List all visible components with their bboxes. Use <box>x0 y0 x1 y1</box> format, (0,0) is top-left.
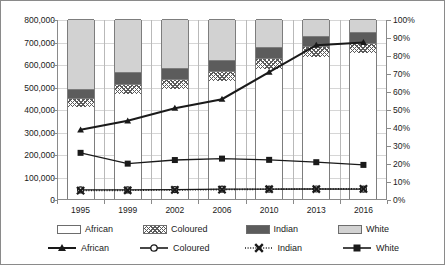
legend-label: White <box>376 243 399 253</box>
x-tick-mark <box>246 200 247 204</box>
x-tick-mark <box>293 200 294 204</box>
x-tick-mark <box>151 200 152 204</box>
x-tick-mark <box>387 200 388 204</box>
legend-swatch-white-icon <box>338 225 362 234</box>
y-tick-label: 700,000 <box>3 39 55 48</box>
legend-item-line-indian[interactable]: Indian <box>244 243 303 253</box>
x-tick-label: 2013 <box>293 205 339 215</box>
y-tick-label: 600,000 <box>3 61 55 70</box>
y2-tick-mark <box>387 20 391 21</box>
x-tick-label: 2006 <box>199 205 245 215</box>
y-tick-label: 300,000 <box>3 129 55 138</box>
y-tick-label: 200,000 <box>3 151 55 160</box>
legend-item-bar-indian[interactable]: Indian <box>246 224 299 234</box>
legend-label: Coloured <box>173 243 210 253</box>
y-tick-label: 100,000 <box>3 174 55 183</box>
line-series-white <box>78 150 367 168</box>
y-tick-label: 500,000 <box>3 84 55 93</box>
y2-tick-label: 100% <box>393 16 433 25</box>
legend-item-bar-african[interactable]: African <box>57 224 113 234</box>
y-tick-label: 800,000 <box>3 16 55 25</box>
plot-border-bottom <box>57 199 387 200</box>
plot-border-right <box>386 20 387 200</box>
plot-border-left <box>57 20 58 200</box>
series-path <box>81 43 364 130</box>
legend-swatch-indian-icon <box>246 225 270 234</box>
x-tick-label: 1995 <box>58 205 104 215</box>
y2-tick-mark <box>387 56 391 57</box>
legend-item-line-white[interactable]: White <box>342 243 399 253</box>
y2-tick-label: 20% <box>393 160 433 169</box>
x-tick-label: 2010 <box>246 205 292 215</box>
triangle-marker-icon <box>47 243 77 253</box>
legend-label: African <box>81 243 109 253</box>
y2-tick-label: 70% <box>393 70 433 79</box>
legend-label: African <box>85 224 113 234</box>
legend-line-series: AfricanColouredIndianWhite <box>0 243 446 253</box>
series-marker-square <box>78 150 84 156</box>
x-tick-label: 1999 <box>105 205 151 215</box>
line-series-layer <box>57 20 387 200</box>
legend-item-line-coloured[interactable]: Coloured <box>139 243 210 253</box>
y2-tick-label: 0% <box>393 196 433 205</box>
series-marker-square <box>313 159 319 165</box>
x-tick-label: 2002 <box>152 205 198 215</box>
y2-tick-mark <box>387 182 391 183</box>
y2-tick-label: 40% <box>393 124 433 133</box>
legend-bar-series: AfricanColouredIndianWhite <box>0 224 446 234</box>
chart-screenshot: 0100,000200,000300,000400,000500,000600,… <box>0 0 446 266</box>
y2-tick-mark <box>387 92 391 93</box>
square-marker-icon <box>342 243 372 253</box>
legend-item-bar-white[interactable]: White <box>338 224 389 234</box>
x-tick-mark <box>340 200 341 204</box>
y2-tick-mark <box>387 128 391 129</box>
series-marker-square <box>360 162 366 168</box>
x-tick-label: 2016 <box>340 205 386 215</box>
legend-label: Indian <box>278 243 303 253</box>
y-tick-label: 400,000 <box>3 106 55 115</box>
legend-swatch-coloured-icon <box>143 225 167 234</box>
y2-tick-label: 30% <box>393 142 433 151</box>
x-tick-mark <box>198 200 199 204</box>
y2-tick-label: 80% <box>393 52 433 61</box>
plot-area <box>57 20 387 200</box>
series-marker-square <box>172 157 178 163</box>
y2-tick-mark <box>387 164 391 165</box>
y2-tick-mark <box>387 146 391 147</box>
x-marker-icon <box>244 243 274 253</box>
y2-tick-label: 90% <box>393 34 433 43</box>
circle-marker-icon <box>139 243 169 253</box>
y2-tick-mark <box>387 110 391 111</box>
y2-tick-mark <box>387 74 391 75</box>
legend-label: Indian <box>274 224 299 234</box>
y2-tick-label: 60% <box>393 88 433 97</box>
y-tick-label: 0 <box>3 196 55 205</box>
legend-item-line-african[interactable]: African <box>47 243 109 253</box>
series-marker-square <box>219 156 225 162</box>
y2-tick-label: 10% <box>393 178 433 187</box>
legend-item-bar-coloured[interactable]: Coloured <box>143 224 208 234</box>
x-tick-mark <box>57 200 58 204</box>
series-marker-square <box>266 157 272 163</box>
line-series-african <box>77 39 367 132</box>
legend-label: White <box>366 224 389 234</box>
legend-label: Coloured <box>171 224 208 234</box>
legend-swatch-african-icon <box>57 225 81 234</box>
x-tick-mark <box>104 200 105 204</box>
y2-tick-label: 50% <box>393 106 433 115</box>
series-marker-square <box>125 161 131 167</box>
y2-tick-mark <box>387 38 391 39</box>
